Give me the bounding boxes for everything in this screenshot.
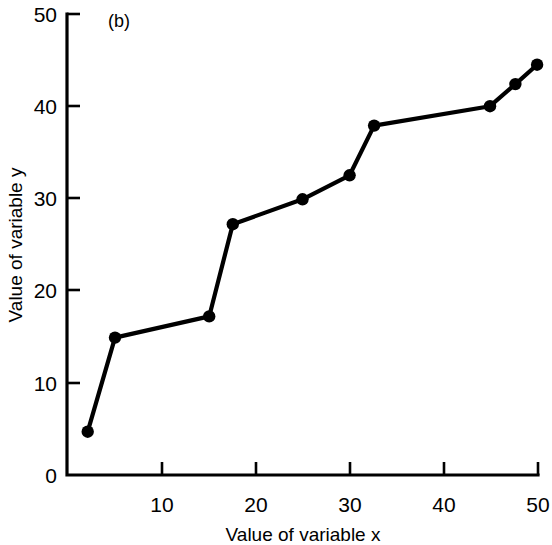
data-point-marker <box>368 119 380 131</box>
x-axis-title: Value of variable x <box>226 524 381 545</box>
x-tick-label: 30 <box>338 493 361 516</box>
y-tick-label: 30 <box>34 187 57 210</box>
axis-spines <box>67 14 538 475</box>
data-point-marker <box>109 331 121 343</box>
x-tick-label: 40 <box>432 493 455 516</box>
data-point-marker <box>203 310 215 322</box>
x-tick-label: 10 <box>150 493 173 516</box>
y-axis-title: Value of variable y <box>5 167 26 322</box>
y-axis-tick-marks <box>67 14 80 383</box>
data-point-marker <box>484 100 496 112</box>
data-point-marker <box>82 426 94 438</box>
y-tick-label: 0 <box>45 464 57 487</box>
data-line <box>88 65 537 432</box>
x-tick-label: 20 <box>244 493 267 516</box>
data-point-marker <box>296 193 308 205</box>
y-axis-tick-labels: 50 40 30 20 10 0 <box>34 3 57 487</box>
y-tick-label: 40 <box>34 95 57 118</box>
data-point-marker <box>343 169 355 181</box>
y-tick-label: 50 <box>34 3 57 26</box>
y-tick-label: 20 <box>34 279 57 302</box>
x-tick-label: 50 <box>526 493 549 516</box>
data-point-marker <box>509 78 521 90</box>
x-axis-tick-marks <box>162 462 538 475</box>
panel-label: (b) <box>108 11 130 31</box>
figure-panel: 50 40 30 20 10 0 10 20 30 40 50 <box>0 0 552 545</box>
line-chart: 50 40 30 20 10 0 10 20 30 40 50 <box>0 0 552 545</box>
data-markers <box>82 58 544 437</box>
y-tick-label: 10 <box>34 372 57 395</box>
data-point-marker <box>531 58 543 70</box>
x-axis-tick-labels: 10 20 30 40 50 <box>150 493 549 516</box>
data-point-marker <box>227 218 239 230</box>
